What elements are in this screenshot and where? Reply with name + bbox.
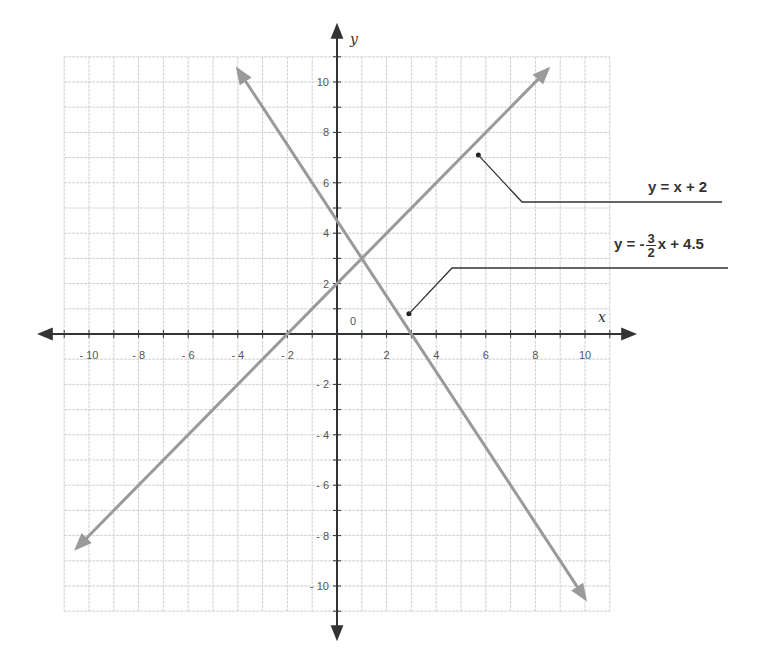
y-tick-label: 10 [317, 76, 329, 88]
equation-text-lhs: y = - [614, 235, 644, 252]
origin-label: 0 [350, 315, 356, 327]
coordinate-plane: - 10- 8- 6- 4- 2246810108642- 2- 4- 6- 8… [0, 0, 764, 667]
x-tick-label: 8 [532, 349, 538, 361]
fraction-denominator: 2 [646, 246, 655, 259]
equation-label-line2: y = -32x + 4.5 [614, 232, 704, 259]
y-tick-label: - 8 [316, 530, 329, 542]
x-tick-label: - 8 [132, 349, 145, 361]
x-tick-label: - 2 [281, 349, 294, 361]
y-tick-label: - 4 [316, 429, 329, 441]
equation-label-line1: y = x + 2 [648, 178, 707, 195]
x-tick-label: - 4 [231, 349, 244, 361]
fraction-numerator: 3 [646, 232, 655, 246]
y-tick-label: 4 [323, 227, 329, 239]
equation-text: y = x + 2 [648, 178, 707, 195]
x-tick-label: 4 [433, 349, 439, 361]
y-tick-label: 6 [323, 177, 329, 189]
x-tick-label: 6 [483, 349, 489, 361]
y-tick-label: 8 [323, 126, 329, 138]
x-tick-label: 2 [384, 349, 390, 361]
x-tick-label: - 6 [182, 349, 195, 361]
y-tick-label: - 6 [316, 479, 329, 491]
y-tick-label: - 2 [316, 378, 329, 390]
x-tick-label: 10 [579, 349, 591, 361]
x-axis-label: x [598, 309, 606, 325]
axes [40, 26, 634, 638]
x-tick-label: - 10 [80, 349, 99, 361]
y-tick-label: - 10 [310, 580, 329, 592]
fraction: 32 [646, 232, 655, 259]
y-tick-label: 2 [323, 278, 329, 290]
equation-text-rhs: x + 4.5 [658, 235, 704, 252]
y-axis-label: y [349, 31, 359, 47]
